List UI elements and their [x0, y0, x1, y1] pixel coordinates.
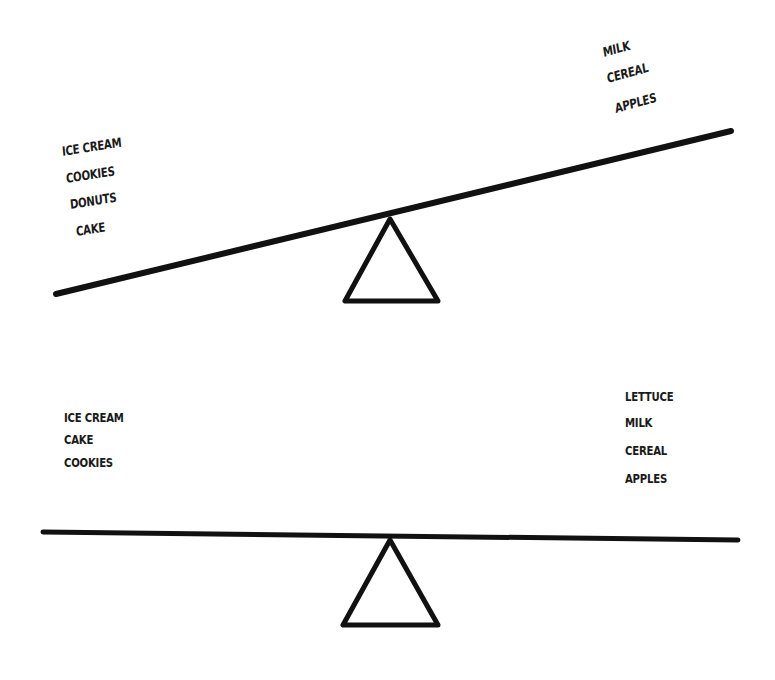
top-scale: [56, 131, 731, 301]
item-label: MILK: [625, 416, 652, 429]
item-label: CAKE: [64, 433, 93, 446]
top-scale-fulcrum: [345, 219, 438, 301]
item-label: APPLES: [625, 472, 667, 485]
bottom-scale: [43, 532, 738, 625]
item-label: COOKIES: [64, 456, 113, 469]
bottom-scale-fulcrum: [343, 540, 438, 625]
top-scale-beam: [56, 131, 731, 294]
balance-diagram: [0, 0, 775, 680]
item-label: LETTUCE: [625, 390, 673, 403]
item-label: ICE CREAM: [64, 411, 124, 424]
item-label: CEREAL: [625, 444, 667, 457]
